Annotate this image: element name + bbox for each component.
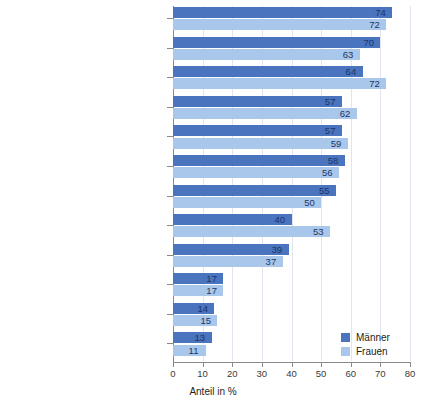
bar-value-label: 55 [319,185,330,196]
legend-label: Frauen [356,346,388,357]
x-tick-label: 60 [345,368,356,379]
category-row: Mehr Kompetenzen7063 [173,37,410,67]
bar-value-label: 56 [322,167,333,178]
x-tick-mark [292,363,293,367]
legend-item: Frauen [341,346,390,357]
x-tick-label: 0 [170,368,175,379]
bar-value-label: 11 [189,345,199,356]
bar-value-label: 40 [275,214,286,225]
bar-value-label: 15 [200,315,211,326]
bar-frauen [173,167,339,178]
x-tick-label: 10 [197,368,208,379]
category-row: Bezahlte Schulung für Einsteiger/innen64… [173,66,410,96]
bar-value-label: 37 [266,256,277,267]
bar-value-label: 39 [272,244,283,255]
category-row: Vollamtliche/r Gemeindepräsident/in5762 [173,96,410,126]
x-tick-label: 80 [405,368,416,379]
chart-legend: MännerFrauen [341,332,390,360]
x-tick-mark [203,363,204,367]
bar-value-label: 17 [206,285,217,296]
x-tick-label: 50 [316,368,327,379]
x-tick-label: 40 [286,368,297,379]
x-tick-mark [351,363,352,367]
bar-value-label: 72 [369,78,380,89]
gridline [410,6,411,361]
category-row: Vollamtliche/r Geschäftsführer/in5759 [173,125,410,155]
x-tick-label: 20 [227,368,238,379]
bar-frauen [173,197,321,208]
category-row: Gemeindefusion5550 [173,185,410,215]
x-tick-label: 30 [257,368,268,379]
x-tick-mark [232,363,233,367]
bar-maenner [173,125,342,136]
legend-item: Männer [341,332,390,343]
bar-maenner [173,332,212,343]
category-row: Verkleinerung der Milizbehörde3937 [173,244,410,274]
x-tick-mark [410,363,411,367]
bar-value-label: 63 [343,49,354,60]
x-tick-label: 70 [375,368,386,379]
bar-value-label: 57 [325,125,336,136]
legend-swatch-frauen [341,347,350,356]
bar-value-label: 53 [313,226,324,237]
bar-value-label: 57 [325,96,336,107]
bar-frauen [173,49,360,60]
bar-maenner [173,7,392,18]
category-row: Höhere Entschädigung5856 [173,155,410,185]
bar-maenner [173,155,345,166]
bar-frauen [173,19,386,30]
x-tick-mark [380,363,381,367]
bar-value-label: 64 [346,66,357,77]
bar-frauen [173,78,386,89]
bar-value-label: 14 [197,303,208,314]
bar-value-label: 17 [206,273,217,284]
bar-maenner [173,96,342,107]
bar-value-label: 62 [340,108,351,119]
bar-value-label: 59 [331,138,342,149]
bar-frauen [173,138,348,149]
x-tick-mark [173,363,174,367]
bar-maenner [173,185,336,196]
x-axis-title: Anteil in % [0,386,426,397]
bar-frauen [173,226,330,237]
legend-swatch-maenner [341,333,350,342]
bar-maenner [173,66,363,77]
bar-value-label: 50 [304,197,315,208]
bar-value-label: 72 [369,19,380,30]
bar-value-label: 74 [375,7,386,18]
bar-value-label: 70 [363,37,374,48]
category-row: Vergrösserung der Milizbehörde1717 [173,273,410,303]
category-row: Ausbau der Verwaltung4053 [173,214,410,244]
bar-value-label: 13 [195,332,206,343]
bar-maenner [173,303,214,314]
category-row: Bessere Trennung strategische und operat… [173,7,410,37]
bar-frauen [173,108,357,119]
bar-maenner [173,37,380,48]
bar-chart: Bessere Trennung strategische und operat… [0,0,426,413]
legend-label: Männer [356,332,390,343]
category-row: Kandidatur von Dienstleistungsunternehme… [173,303,410,333]
x-tick-mark [321,363,322,367]
plot-area: Bessere Trennung strategische und operat… [173,6,410,361]
bar-value-label: 58 [328,155,339,166]
x-tick-mark [262,363,263,367]
